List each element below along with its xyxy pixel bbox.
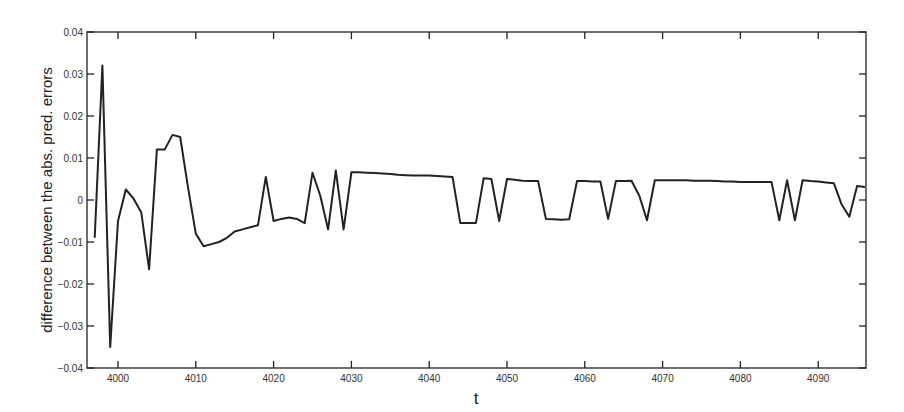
x-tick-label: 4090 [807, 373, 830, 384]
plot-area: 4000401040204030404040504060407040804090… [58, 27, 866, 385]
x-tick-label: 4010 [185, 373, 208, 384]
y-tick-label: 0.01 [64, 153, 84, 164]
y-tick-label: −0.04 [58, 363, 84, 374]
x-tick-label: 4000 [107, 373, 130, 384]
y-tick-label: −0.03 [58, 321, 84, 332]
x-tick-label: 4080 [729, 373, 752, 384]
y-tick-label: 0.02 [64, 111, 84, 122]
y-tick-label: 0.04 [64, 27, 84, 38]
x-tick-label: 4040 [418, 373, 441, 384]
x-tick-label: 4070 [651, 373, 674, 384]
axes-box [87, 32, 866, 368]
x-tick-label: 4030 [340, 373, 363, 384]
y-tick-label: −0.02 [58, 279, 84, 290]
y-tick-label: 0 [77, 195, 83, 206]
x-tick-label: 4020 [262, 373, 285, 384]
x-tick-label: 4060 [574, 373, 597, 384]
y-axis-label: difference between the abs. pred. errors [38, 67, 55, 333]
x-axis-label: t [474, 389, 479, 408]
y-tick-label: −0.01 [58, 237, 84, 248]
x-tick-label: 4050 [496, 373, 519, 384]
y-tick-label: 0.03 [64, 69, 84, 80]
line-chart: 4000401040204030404040504060407040804090… [0, 0, 904, 412]
